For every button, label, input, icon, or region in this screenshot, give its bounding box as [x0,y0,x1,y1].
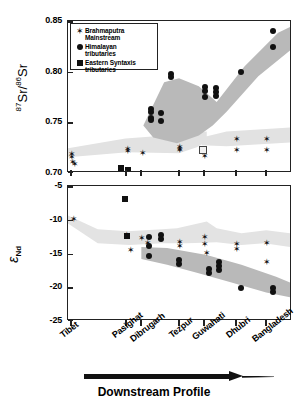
legend-item-himalayan: Himalayan tributaries [74,43,155,58]
sr-point-mainstream [201,153,208,160]
sr-point-mainstream [263,147,270,154]
figure-root: 0.85 0.80 0.75 0.70 87Sr/86Sr [0,0,308,406]
nd-point-syntaxis [124,233,130,239]
legend-item-mainstream: Brahmaputra Mainstream [74,27,155,42]
nd-point-mainstream [263,259,270,266]
nd-point-himalayan [216,267,222,273]
nd-point-mainstream [176,243,183,250]
sr-end: Sr [15,64,30,77]
nd-point-mainstream [233,245,240,252]
nd-point-himalayan [176,261,182,267]
sr-point-mainstream [263,136,270,143]
sr-mid: Sr/ [15,86,30,103]
sr-xtick [203,170,205,176]
nd-ytick-20: -20 [50,281,62,291]
sr-ytick-080: 0.80 [45,66,62,76]
nd-tickmark [68,254,73,256]
nd-point-mainstream [203,249,210,256]
sr-ytick-070: 0.70 [45,167,62,177]
nd-point-himalayan [206,270,212,276]
sr-point-mainstream [176,147,183,154]
sr-ytick-085: 0.85 [45,15,62,25]
sr-point-syntaxis [118,165,124,171]
nd-axis-title: εNd [5,214,24,294]
nd-sub: Nd [14,246,23,257]
downstream-profile-label: Downstream Profile [0,385,308,399]
sr-xtick [235,170,237,176]
nd-ytick-25: -25 [50,315,62,325]
nd-point-syntaxis [122,196,128,202]
sr-point-mainstream [71,160,78,167]
arrow-shaft [84,374,234,379]
sr-tickmark [68,122,73,124]
nd-ytick-labels: -5 -10 -15 -20 -25 [30,185,62,320]
nd-ytick-15: -15 [50,248,62,258]
sr-sup-86: 86 [14,77,23,86]
legend-line2: tributaries [85,66,136,73]
sr-point-himalayan [202,94,208,100]
legend-label-mainstream: Brahmaputra Mainstream [85,27,124,42]
nd-point-himalayan [270,289,276,295]
sr-point-syntaxis-open [199,146,207,154]
nd-ytick-10: -10 [50,214,62,224]
sr-point-himalayan [148,117,154,123]
nd-tickmark [68,287,73,289]
nd-tickmark [68,186,73,188]
sr-point-himalayan [238,69,244,75]
legend: Brahmaputra Mainstream Himalayan tributa… [70,23,158,70]
legend-line1: Eastern Syntaxis [85,59,136,66]
nd-point-himalayan [146,234,152,240]
sr-point-himalayan [158,118,164,124]
arrow-head [229,371,243,381]
nd-point-himalayan [158,236,164,242]
circle-icon [74,43,85,50]
sr-xtick [125,170,127,176]
sr-point-himalayan [158,110,164,116]
square-icon [74,59,85,66]
sr-ytick-075: 0.75 [45,116,62,126]
sr-ytick-labels: 0.85 0.80 0.75 0.70 [30,20,62,172]
nd-point-mainstream [127,246,134,253]
sr-point-himalayan [213,93,219,99]
legend-label-himalayan: Himalayan tributaries [85,43,117,58]
sr-point-mainstream [139,150,146,157]
arrow-tip [242,376,274,378]
nd-plot-area [68,186,290,319]
sr-point-himalayan [270,44,276,50]
sr-xtick [140,170,142,176]
nd-point-himalayan [238,285,244,291]
sr-sup-87: 87 [14,102,23,111]
legend-line2: tributaries [85,50,117,57]
legend-line1: Brahmaputra [85,27,124,34]
right-arrow-icon [84,371,274,383]
nd-point-himalayan [146,243,152,249]
star-icon [74,27,85,35]
nd-tickmark [68,220,73,222]
sr-point-mainstream [233,147,240,154]
nd-panel [67,185,291,320]
sr-xtick [70,170,72,176]
nd-point-mainstream [263,240,270,247]
sr-point-mainstream [124,148,131,155]
nd-shaded-fields [68,186,290,319]
legend-item-syntaxis: Eastern Syntaxis tributaries [74,59,155,74]
sr-point-himalayan [270,28,276,34]
nd-epsilon: ε [5,257,21,263]
sr-tickmark [68,72,73,74]
sr-axis-title: 87Sr/86Sr [14,38,29,138]
sr-point-himalayan [168,74,174,80]
nd-point-himalayan [146,253,152,259]
legend-line1: Himalayan [85,43,117,50]
legend-line2: Mainstream [85,34,124,41]
sr-xtick [178,170,180,176]
sr-xtick [265,170,267,176]
sr-point-mainstream [233,136,240,143]
nd-ytick-5: -5 [54,180,62,190]
legend-label-syntaxis: Eastern Syntaxis tributaries [85,59,136,74]
